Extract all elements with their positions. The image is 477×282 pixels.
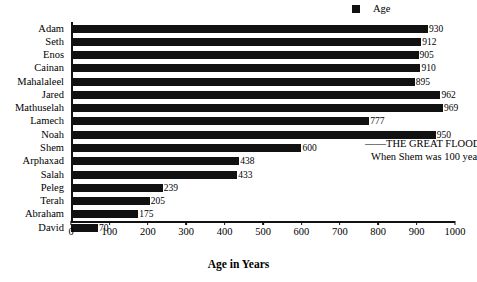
- x-tick-mark: [147, 221, 149, 225]
- annotation-great-flood: ——THE GREAT FLOOD—— When Shem was 100 ye…: [365, 138, 477, 163]
- x-tick-label: 900: [409, 226, 425, 238]
- legend-label-age: Age: [373, 4, 391, 14]
- category-label: Arphaxad: [0, 155, 68, 168]
- category-label: Peleg: [0, 181, 68, 194]
- bar-value-label: 433: [237, 170, 252, 179]
- category-label: Shem: [0, 141, 68, 154]
- bar-row: 205: [71, 194, 455, 207]
- bar-row: 895: [71, 75, 455, 88]
- x-tick-mark: [262, 221, 264, 225]
- x-tick-mark: [416, 221, 418, 225]
- x-tick: 800: [370, 221, 386, 238]
- category-label: Terah: [0, 194, 68, 207]
- x-axis-ticks: 01002003004005006007008009001000: [71, 221, 455, 237]
- category-label: Lamech: [0, 115, 68, 128]
- bar-value-label: 239: [163, 183, 178, 192]
- x-tick-mark: [109, 221, 111, 225]
- bar: [71, 171, 237, 179]
- bar-row: 969: [71, 102, 455, 115]
- x-tick-mark: [301, 221, 303, 225]
- category-label: Mathuselah: [0, 102, 68, 115]
- bar-row: 433: [71, 168, 455, 181]
- bar: [71, 104, 443, 112]
- x-tick-mark: [454, 221, 456, 225]
- bar-row: 912: [71, 35, 455, 48]
- x-tick: 0: [68, 221, 73, 238]
- category-label: Adam: [0, 22, 68, 35]
- bar-value-label: 777: [369, 117, 384, 126]
- bar: [71, 78, 415, 86]
- bar: [71, 25, 428, 33]
- bar-value-label: 912: [421, 37, 436, 46]
- x-axis-title: Age in Years: [0, 258, 477, 270]
- x-tick-mark: [224, 221, 226, 225]
- x-tick: 1000: [445, 221, 466, 238]
- x-tick-label: 500: [255, 226, 271, 238]
- bar: [71, 64, 420, 72]
- bar-value-label: 905: [419, 51, 434, 60]
- bar-value-label: 205: [150, 197, 165, 206]
- bar-row: 910: [71, 62, 455, 75]
- x-tick-label: 700: [332, 226, 348, 238]
- x-tick-label: 300: [178, 226, 194, 238]
- bar-value-label: 438: [239, 157, 254, 166]
- x-tick-label: 200: [140, 226, 156, 238]
- bar: [71, 117, 369, 125]
- x-tick-label: 800: [370, 226, 386, 238]
- x-tick: 600: [294, 221, 310, 238]
- bar-row: 239: [71, 181, 455, 194]
- x-tick: 300: [178, 221, 194, 238]
- bar-row: 905: [71, 49, 455, 62]
- annotation-line-2: When Shem was 100 years old: [371, 151, 477, 163]
- bar-row: 175: [71, 208, 455, 221]
- x-tick-mark: [377, 221, 379, 225]
- x-tick-label: 600: [294, 226, 310, 238]
- bar: [71, 51, 419, 59]
- x-tick-label: 100: [102, 226, 118, 238]
- annotation-line-1: ——THE GREAT FLOOD——: [365, 138, 477, 150]
- x-tick-label: 0: [68, 226, 73, 238]
- x-tick: 500: [255, 221, 271, 238]
- bar-row: 962: [71, 88, 455, 101]
- x-tick: 100: [102, 221, 118, 238]
- category-label: David: [0, 221, 68, 234]
- x-tick-mark: [185, 221, 187, 225]
- bar-series-age: 9309129059108959629697779506004384332392…: [71, 22, 455, 221]
- bar-value-label: 910: [420, 64, 435, 73]
- bar: [71, 91, 440, 99]
- category-label: Cainan: [0, 62, 68, 75]
- bar-value-label: 969: [443, 104, 458, 113]
- chart-legend: Age: [352, 4, 391, 14]
- bar: [71, 38, 421, 46]
- x-tick-mark: [339, 221, 341, 225]
- bar-row: 777: [71, 115, 455, 128]
- category-label: Enos: [0, 49, 68, 62]
- x-tick: 400: [217, 221, 233, 238]
- bar-chart: Age Adam Seth Enos Cainan Mahalaleel Jar…: [0, 0, 477, 282]
- x-tick: 900: [409, 221, 425, 238]
- category-label: Salah: [0, 168, 68, 181]
- plot-area: 9309129059108959629697779506004384332392…: [71, 22, 455, 221]
- category-axis-labels: Adam Seth Enos Cainan Mahalaleel Jared M…: [0, 22, 68, 221]
- bar-value-label: 962: [440, 90, 455, 99]
- x-tick-label: 400: [217, 226, 233, 238]
- bar-value-label: 895: [415, 77, 430, 86]
- bar-row: 930: [71, 22, 455, 35]
- bar: [71, 184, 163, 192]
- bar-value-label: 930: [428, 24, 443, 33]
- bar: [71, 210, 138, 218]
- category-label: Noah: [0, 128, 68, 141]
- x-tick: 200: [140, 221, 156, 238]
- x-tick: 700: [332, 221, 348, 238]
- legend-swatch-age-icon: [352, 5, 360, 13]
- x-tick-mark: [70, 221, 72, 225]
- category-label: Jared: [0, 88, 68, 101]
- bar: [71, 157, 239, 165]
- x-tick-label: 1000: [445, 226, 466, 238]
- bar: [71, 144, 301, 152]
- bar-value-label: 600: [301, 144, 316, 153]
- bar-value-label: 175: [138, 210, 153, 219]
- bar: [71, 197, 150, 205]
- category-label: Seth: [0, 35, 68, 48]
- category-label: Mahalaleel: [0, 75, 68, 88]
